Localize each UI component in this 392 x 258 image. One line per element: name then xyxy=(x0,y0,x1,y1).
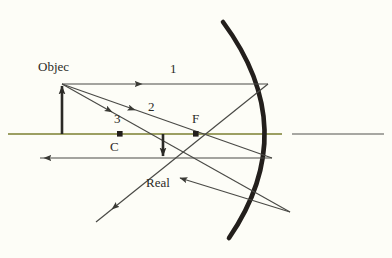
ray-3-label: 3 xyxy=(114,112,121,125)
point-c-marker xyxy=(117,131,123,137)
center-of-curvature-label: C xyxy=(110,140,119,153)
incident-ray-3-through-center xyxy=(62,84,290,212)
image-label: Real xyxy=(146,176,170,189)
ray-1-label: 1 xyxy=(170,62,177,75)
ray-diagram-canvas xyxy=(0,0,392,258)
incident-ray-2-through-focus xyxy=(62,84,272,158)
ray-diagram-figure: Objec 1 2 3 C F Real xyxy=(0,0,392,258)
concave-mirror-arc xyxy=(223,22,265,238)
point-f-marker xyxy=(193,131,199,137)
ray-2-label: 2 xyxy=(148,100,155,113)
object-label: Objec xyxy=(38,60,69,73)
reflected-ray-3-retrace xyxy=(180,178,290,212)
focal-point-label: F xyxy=(192,112,199,125)
